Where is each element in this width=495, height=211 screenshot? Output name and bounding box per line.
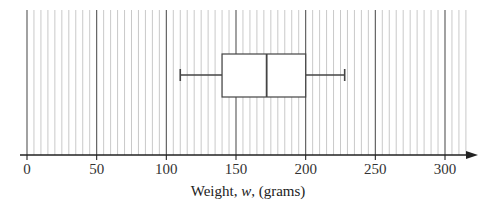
x-tick-label: 300 (434, 161, 457, 177)
x-tick-label: 200 (294, 161, 317, 177)
x-tick-label: 0 (23, 161, 31, 177)
x-axis-label: Weight, w, (grams) (191, 183, 306, 200)
x-tick-label: 50 (89, 161, 104, 177)
x-tick-label: 250 (364, 161, 387, 177)
iqr-box (222, 54, 306, 97)
axis-arrow-icon (466, 151, 478, 159)
x-axis-tick-labels: 050100150200250300 (23, 161, 456, 177)
x-tick-label: 100 (155, 161, 178, 177)
x-axis (20, 151, 478, 160)
x-tick-label: 150 (225, 161, 248, 177)
box-plot-chart: 050100150200250300 Weight, w, (grams) (0, 0, 495, 211)
box-and-whisker (180, 54, 344, 97)
